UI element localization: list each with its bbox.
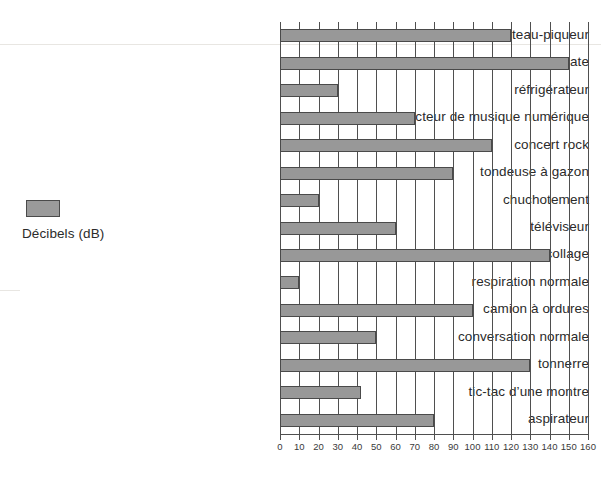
bar [280, 112, 415, 125]
bar [280, 414, 434, 427]
x-tick-80 [434, 434, 435, 440]
gridline-70 [415, 22, 416, 434]
x-tick-50 [376, 434, 377, 440]
chart-legend: Décibels (dB) [22, 200, 142, 241]
x-tick-90 [453, 434, 454, 440]
x-tick-20 [319, 434, 320, 440]
gridline-140 [550, 22, 551, 434]
x-tick-140 [550, 434, 551, 440]
x-tick-130 [530, 434, 531, 440]
gridline-130 [530, 22, 531, 434]
x-tick-100 [473, 434, 474, 440]
bar [280, 304, 473, 317]
x-tick-60 [396, 434, 397, 440]
gridline-100 [473, 22, 474, 434]
x-tick-10 [299, 434, 300, 440]
gridline-150 [569, 22, 570, 434]
bar [280, 194, 319, 207]
bar [280, 249, 550, 262]
x-tick-120 [511, 434, 512, 440]
x-tick-70 [415, 434, 416, 440]
bar [280, 222, 396, 235]
x-tick-0 [280, 434, 281, 440]
bar [280, 167, 453, 180]
legend-label-decibels: Décibels (dB) [22, 226, 142, 241]
bar [280, 386, 361, 399]
bar [280, 276, 299, 289]
gridline-80 [434, 22, 435, 434]
bar [280, 29, 511, 42]
decibel-bar-chart: Décibels (dB) marteau-piqueurballon qui … [0, 0, 601, 479]
plot-area [280, 22, 588, 434]
gridline-120 [511, 22, 512, 434]
x-tick-40 [357, 434, 358, 440]
x-tick-160 [588, 434, 589, 440]
gridline-110 [492, 22, 493, 434]
legend-swatch-decibels [26, 200, 60, 217]
gridline-60 [396, 22, 397, 434]
bar [280, 359, 530, 372]
bar [280, 57, 569, 70]
bar [280, 84, 338, 97]
gridline-90 [453, 22, 454, 434]
x-tick-30 [338, 434, 339, 440]
bar [280, 139, 492, 152]
x-tick-110 [492, 434, 493, 440]
x-tick-label-160: 160 [575, 441, 601, 452]
x-tick-150 [569, 434, 570, 440]
gridline-160 [588, 22, 589, 434]
bar [280, 331, 376, 344]
